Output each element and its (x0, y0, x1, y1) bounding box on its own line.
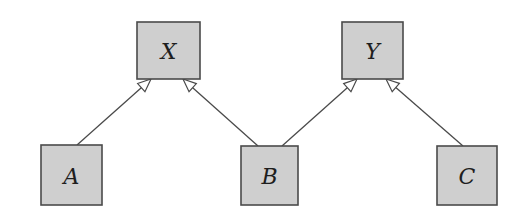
edges-layer (77, 79, 463, 146)
edge-c-to-y (386, 79, 463, 146)
edge-line (282, 88, 347, 146)
inheritance-diagram: XYABC (0, 0, 524, 221)
node-c: C (437, 146, 497, 205)
edge-b-to-x (183, 79, 258, 146)
node-label: Y (365, 39, 382, 64)
node-b: B (241, 146, 298, 205)
node-label: A (62, 164, 80, 189)
node-x: X (137, 22, 200, 79)
node-label: X (159, 39, 178, 64)
node-a: A (41, 145, 102, 205)
edge-a-to-x (77, 79, 151, 145)
node-y: Y (342, 22, 403, 79)
edge-line (396, 88, 463, 146)
nodes-layer: XYABC (41, 22, 497, 205)
edge-line (77, 88, 141, 145)
edge-line (193, 88, 258, 146)
node-label: B (260, 164, 277, 189)
node-label: C (459, 164, 476, 189)
edge-b-to-y (282, 79, 357, 146)
